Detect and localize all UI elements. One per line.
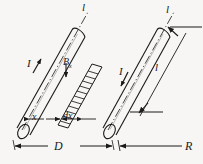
label-element-dx: dx [63, 111, 72, 121]
label-current-left: I [27, 58, 31, 69]
label-radius-R: R [185, 140, 192, 152]
label-magnetic-field-subscript: x [69, 63, 72, 69]
label-length-l: l [155, 62, 158, 73]
separation-dimension [13, 140, 114, 150]
figure-canvas [0, 0, 203, 164]
right-conductor-end-face [101, 122, 117, 140]
radius-dimension [118, 140, 182, 151]
label-magnetic-field: Bx [63, 57, 72, 69]
label-axis-left: l [82, 2, 85, 13]
label-separation-D: D [54, 140, 63, 152]
label-distance-x: x [32, 112, 36, 122]
label-axis-right: l [166, 4, 169, 15]
label-current-right: I [119, 66, 123, 77]
left-current-arrow [33, 59, 41, 73]
physics-figure: I Bx x dx D R I l l l [0, 0, 203, 164]
left-conductor-end-face [15, 122, 31, 140]
